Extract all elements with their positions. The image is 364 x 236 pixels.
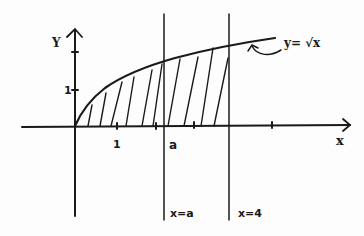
x-axis-label: x <box>336 134 344 147</box>
x-tick-label-a: a <box>169 139 177 151</box>
vertical-line-label-4: x=4 <box>238 208 262 219</box>
function-label: y= √x <box>284 37 320 49</box>
y-axis-label: Y <box>52 37 61 49</box>
x-axis <box>22 125 350 127</box>
hatching <box>88 48 228 126</box>
x-tick-label-one: 1 <box>113 139 121 150</box>
diagram-canvas: Y 1 1 a x y= √x x=a x=4 <box>0 0 364 236</box>
vertical-line-label-a: x=a <box>170 208 194 219</box>
y-tick-label-one: 1 <box>64 85 72 96</box>
sqrt-curve <box>75 38 275 126</box>
